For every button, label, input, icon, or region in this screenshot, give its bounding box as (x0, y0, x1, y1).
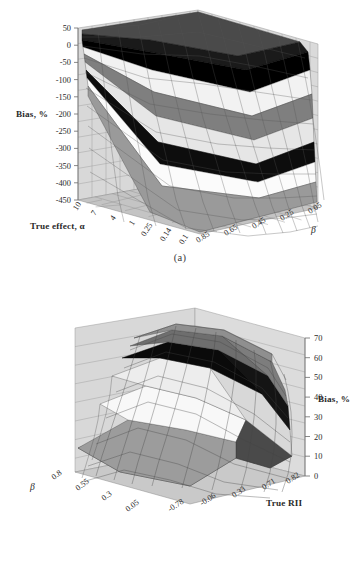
z-axis-a: 50 0 -50 -100 -150 -200 -250 -300 -350 -… (56, 24, 78, 205)
x-tick-a-3: 1 (127, 219, 137, 227)
y-axis-title-a: β (310, 224, 316, 235)
z-tick-b-2: 50 (314, 373, 322, 382)
y-tick-b-3: 0.05 (124, 498, 141, 514)
surface-plot-a: 50 0 -50 -100 -150 -200 -250 -300 -350 -… (0, 0, 360, 252)
z-tick-a-8: -350 (56, 162, 71, 171)
z-tick-a-9: -400 (56, 179, 71, 188)
z-tick-b-6: 10 (314, 452, 322, 461)
panel-a: 50 0 -50 -100 -150 -200 -250 -300 -350 -… (0, 0, 360, 280)
panel-b: 70 60 50 40 30 20 10 0 (0, 280, 360, 561)
x-tick-a-5: 0.14 (158, 226, 173, 243)
y-axis-title-b: β (29, 481, 35, 492)
z-tick-a-2: -50 (60, 58, 71, 67)
y-tick-b-1: 0.55 (74, 477, 91, 493)
z-tick-b-4: 30 (314, 413, 322, 422)
panel-a-caption: (a) (0, 252, 360, 263)
z-tick-b-5: 20 (314, 433, 322, 442)
z-tick-a-3: -100 (56, 76, 71, 85)
y-tick-b-2: 0.3 (100, 489, 114, 502)
z-axis-title-a: Bias, % (16, 109, 48, 119)
z-tick-a-5: -200 (56, 110, 71, 119)
z-axis-title-b: Bias, % (318, 394, 350, 404)
z-tick-a-7: -300 (56, 144, 71, 153)
z-tick-b-1: 60 (314, 354, 322, 363)
z-tick-a-4: -150 (56, 93, 71, 102)
z-tick-a-10: -450 (56, 196, 71, 205)
x-axis-title-a: True effect, α (30, 221, 86, 231)
z-tick-a-6: -250 (56, 127, 71, 136)
z-tick-a-0: 50 (63, 24, 71, 33)
x-tick-a-4: 0.25 (139, 221, 154, 238)
x-tick-a-6: 0.1 (177, 233, 190, 246)
x-tick-a-0: 10 (71, 200, 83, 212)
surface-plot-b: 70 60 50 40 30 20 10 0 (0, 280, 360, 530)
figure-container: 50 0 -50 -100 -150 -200 -250 -300 -350 -… (0, 0, 360, 561)
z-tick-b-0: 70 (314, 334, 322, 343)
z-tick-a-1: 0 (67, 41, 71, 50)
x-tick-a-1: 7 (89, 209, 99, 217)
z-axis-b: 70 60 50 40 30 20 10 0 (305, 334, 322, 481)
z-tick-b-7: 0 (314, 472, 318, 481)
x-axis-title-b: True RII (266, 498, 303, 508)
y-tick-b-0: 0.8 (50, 468, 64, 481)
x-tick-a-2: 4 (108, 214, 118, 222)
